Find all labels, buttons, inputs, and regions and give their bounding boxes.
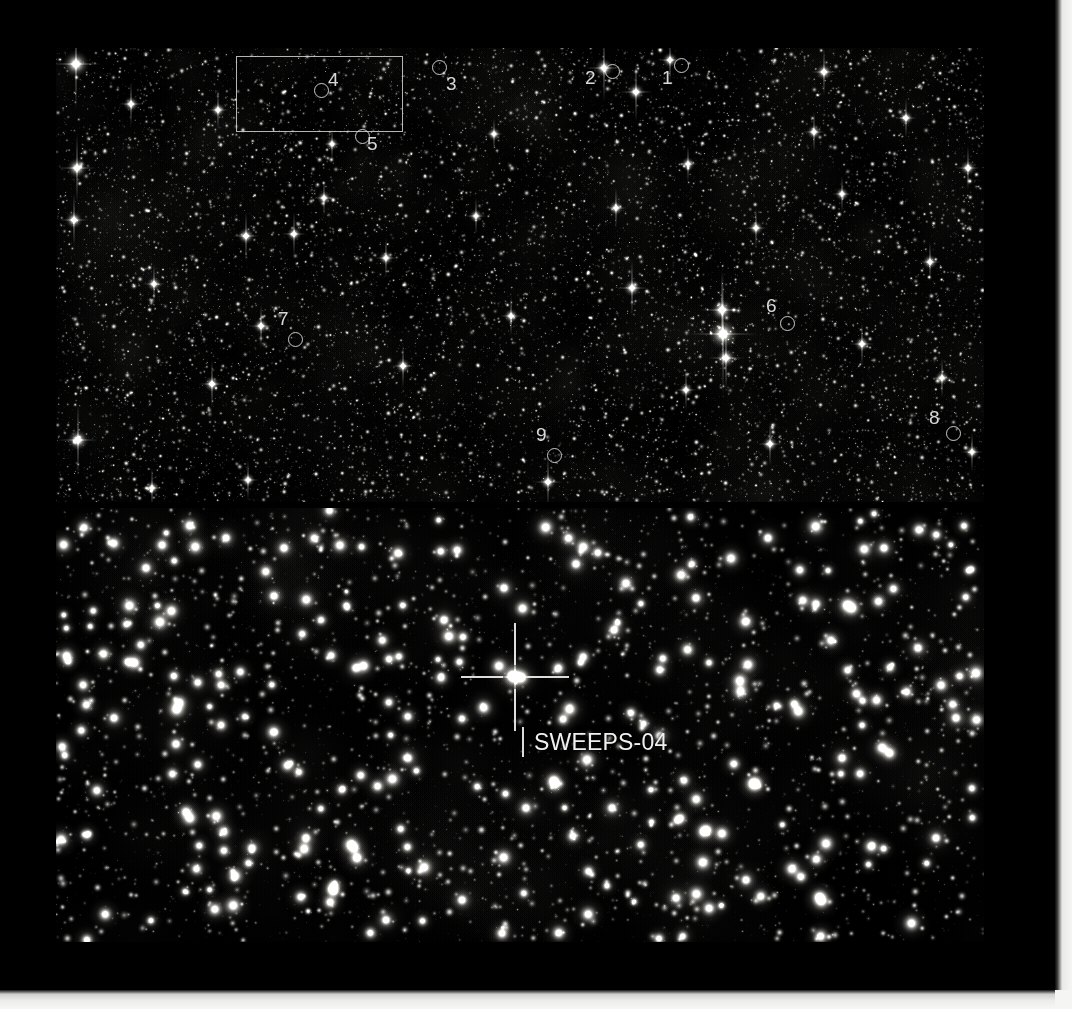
- zoom-panel: SWEEPS-04: [56, 508, 984, 942]
- figure-stage: 123456789 SWEEPS-04: [0, 0, 1072, 1009]
- page-edge-bottom: [0, 990, 1072, 1009]
- wide-field-image: [56, 48, 984, 502]
- page-edge-corner: [1055, 990, 1072, 1009]
- zoom-image: [56, 508, 984, 942]
- wide-field-panel: 123456789: [56, 48, 984, 502]
- page-edge-right: [1055, 0, 1072, 1009]
